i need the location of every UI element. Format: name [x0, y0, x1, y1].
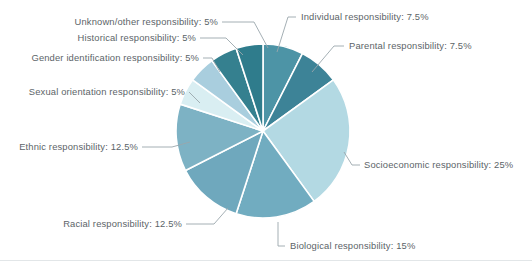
- leader-line-biological: [278, 222, 285, 246]
- pie-label-biological: Biological responsibility: 15%: [290, 240, 415, 251]
- pie-label-racial: Racial responsibility: 12.5%: [63, 218, 182, 229]
- pie-label-historical: Historical responsibility: 5%: [78, 32, 196, 43]
- pie-label-socioeconomic: Socioeconomic responsibility: 25%: [364, 159, 513, 170]
- pie-label-gender-identification: Gender identification responsibility: 5%: [31, 52, 199, 63]
- leader-line-racial: [186, 208, 228, 224]
- pie-label-ethnic: Ethnic responsibility: 12.5%: [19, 141, 138, 152]
- pie-slices-group: [176, 44, 350, 218]
- pie-label-individual: Individual responsibility: 7.5%: [301, 11, 429, 22]
- pie-label-sexual-orientation: Sexual orientation responsibility: 5%: [29, 86, 185, 97]
- pie-label-parental: Parental responsibility: 7.5%: [349, 40, 472, 51]
- pie-chart-figure: Unknown/other responsibility: 5% Histori…: [0, 0, 532, 261]
- pie-chart-canvas: Unknown/other responsibility: 5% Histori…: [0, 0, 532, 261]
- pie-label-unknown-other: Unknown/other responsibility: 5%: [75, 16, 218, 27]
